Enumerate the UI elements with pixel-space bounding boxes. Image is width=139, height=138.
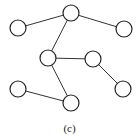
node-middle [40, 50, 56, 66]
node-bottom [63, 95, 79, 111]
node-lower-left [10, 81, 26, 97]
graph-diagram [0, 0, 139, 138]
graph-edges [18, 13, 124, 103]
figure-caption: (c) [0, 122, 139, 134]
node-left [10, 20, 26, 36]
node-mid-right [85, 51, 101, 67]
node-right [116, 21, 132, 37]
node-top [63, 5, 79, 21]
graph-nodes [10, 5, 132, 111]
node-lower-right [115, 81, 131, 97]
